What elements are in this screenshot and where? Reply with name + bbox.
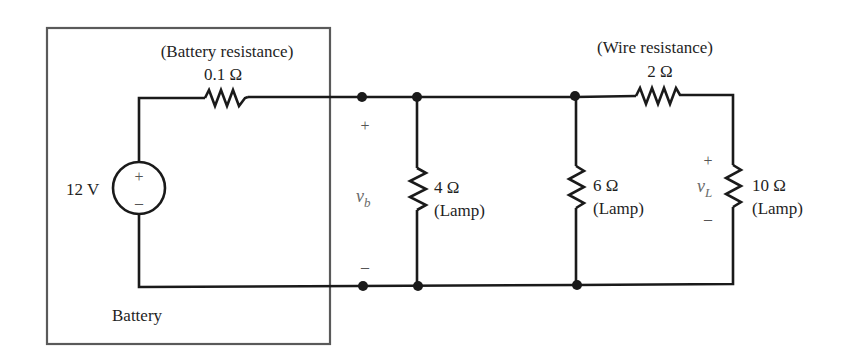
lamp-6-resistor bbox=[569, 166, 584, 208]
node-top-lamp6 bbox=[570, 91, 580, 101]
vl-label: vL bbox=[697, 176, 712, 200]
node-bottom-lamp4 bbox=[413, 281, 423, 291]
node-top-lamp4 bbox=[412, 92, 422, 102]
node-vb-minus bbox=[358, 281, 368, 291]
source-plus-sign: + bbox=[134, 168, 143, 185]
lamp-6-value: 6 Ω bbox=[593, 176, 618, 195]
node-bottom-lamp6 bbox=[572, 280, 582, 290]
vb-label: vb bbox=[356, 186, 371, 210]
battery-resistance-value: 0.1 Ω bbox=[204, 65, 242, 84]
wire-resistance-caption: (Wire resistance) bbox=[597, 38, 713, 57]
node-vb-plus bbox=[357, 92, 367, 102]
lamp-4-value: 4 Ω bbox=[434, 178, 459, 197]
wire-source-top bbox=[139, 98, 205, 162]
vb-minus-sign: – bbox=[360, 258, 370, 275]
lamp-10-resistor bbox=[726, 165, 741, 207]
lamp-10-value: 10 Ω bbox=[752, 176, 786, 195]
wire-resistance-value: 2 Ω bbox=[647, 62, 672, 81]
lamp-10-caption: (Lamp) bbox=[752, 199, 803, 218]
source-voltage-label: 12 V bbox=[66, 180, 100, 199]
wire-resistor bbox=[636, 88, 682, 104]
battery-resistor bbox=[205, 90, 248, 106]
source-minus-sign: – bbox=[134, 194, 144, 211]
wire-bottom-main bbox=[139, 214, 576, 287]
battery-resistance-caption: (Battery resistance) bbox=[161, 42, 294, 61]
lamp-6-caption: (Lamp) bbox=[593, 199, 644, 218]
lamp-4-resistor bbox=[410, 168, 426, 210]
battery-label: Battery bbox=[112, 306, 163, 325]
vl-plus-sign: + bbox=[703, 152, 712, 169]
circuit-diagram: + – 12 V (Battery resistance) 0.1 Ω (Wir… bbox=[0, 0, 851, 359]
vb-plus-sign: + bbox=[360, 117, 369, 134]
lamp-4-caption: (Lamp) bbox=[434, 201, 485, 220]
vl-minus-sign: – bbox=[703, 210, 713, 227]
